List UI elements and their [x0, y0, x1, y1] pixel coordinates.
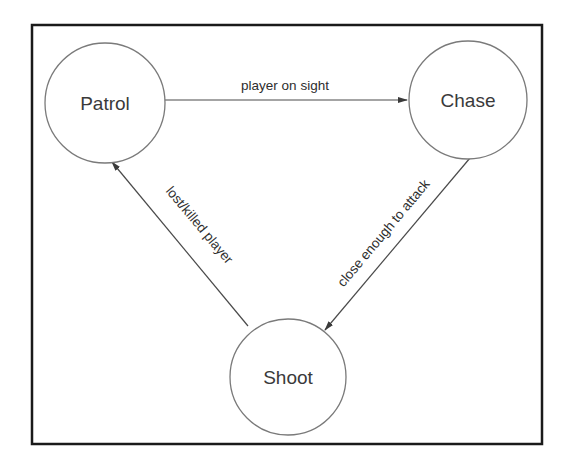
- state-diagram: player on sight close enough to attack l…: [0, 0, 570, 469]
- state-shoot[interactable]: Shoot: [230, 319, 346, 435]
- transition-patrol-to-chase: player on sight: [165, 78, 407, 100]
- label-lost-killed-player: lost/killed player: [163, 183, 237, 267]
- label-player-on-sight: player on sight: [241, 78, 329, 93]
- state-label-patrol: Patrol: [80, 93, 130, 114]
- state-label-chase: Chase: [441, 90, 496, 111]
- transition-shoot-to-patrol: lost/killed player: [112, 162, 248, 326]
- label-close-enough-to-attack: close enough to attack: [334, 176, 432, 289]
- state-patrol[interactable]: Patrol: [45, 43, 165, 163]
- transition-chase-to-shoot: close enough to attack: [325, 158, 470, 330]
- arrow-shoot-to-patrol: [112, 162, 248, 326]
- state-label-shoot: Shoot: [263, 367, 313, 388]
- arrow-chase-to-shoot: [325, 158, 470, 330]
- state-chase[interactable]: Chase: [409, 41, 527, 159]
